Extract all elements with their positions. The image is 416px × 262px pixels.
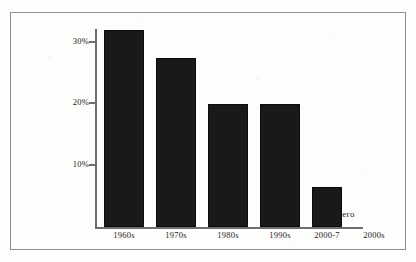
- y-tick-label-10: 10%: [49, 160, 89, 169]
- plot-area: 10% 20% 30% 1960s 1970s 1980s 1990s 2000…: [0, 0, 416, 262]
- x-tick-label-1980s: 1980s: [204, 231, 252, 240]
- y-axis-line: [95, 29, 97, 228]
- x-tick-label-2000-7: 2000-7: [303, 231, 351, 240]
- x-tick-label-2000s: 2000s: [350, 231, 398, 240]
- cero-annotation-label: Cero: [336, 210, 355, 219]
- bar-1990s: [260, 104, 300, 227]
- y-tick-label-30: 30%: [49, 37, 89, 46]
- x-tick-label-1990s: 1990s: [256, 231, 304, 240]
- y-tick-mark-20: [89, 102, 96, 104]
- y-tick-mark-10: [89, 164, 96, 166]
- bar-1960s: [104, 30, 144, 227]
- y-tick-mark-30: [89, 41, 96, 43]
- y-tick-30: 30%: [41, 37, 89, 47]
- y-tick-10: 10%: [41, 160, 89, 170]
- y-tick-20: 20%: [41, 98, 89, 108]
- bar-1980s: [208, 104, 248, 227]
- bar-2000-7: [312, 187, 342, 227]
- bar-1970s: [156, 58, 196, 227]
- y-tick-label-20: 20%: [49, 98, 89, 107]
- x-tick-label-1960s: 1960s: [100, 231, 148, 240]
- figure-container: 10% 20% 30% 1960s 1970s 1980s 1990s 2000…: [0, 0, 416, 262]
- x-axis-line: [95, 227, 363, 229]
- x-tick-label-1970s: 1970s: [152, 231, 200, 240]
